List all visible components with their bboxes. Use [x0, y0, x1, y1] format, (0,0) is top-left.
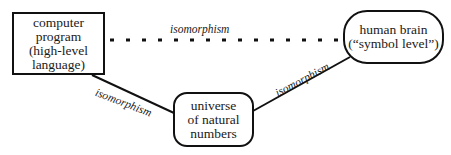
- edge-label-program-brain: isomorphism: [170, 23, 229, 35]
- node-text-line: human brain: [360, 23, 428, 37]
- node-text-line: universe: [191, 99, 237, 113]
- node-text-line: language): [32, 58, 85, 72]
- node-text-line: (high-level: [29, 44, 88, 58]
- node-natural-numbers: universe of natural numbers: [173, 92, 254, 147]
- node-text-line: numbers: [190, 127, 237, 141]
- node-human-brain: human brain (“symbol level”): [343, 10, 444, 64]
- node-text-line: (“symbol level”): [348, 37, 438, 51]
- node-text-line: program: [36, 30, 82, 44]
- node-text-line: computer: [33, 16, 84, 30]
- node-computer-program: computer program (high-level language): [12, 12, 105, 75]
- node-text-line: of natural: [187, 113, 239, 127]
